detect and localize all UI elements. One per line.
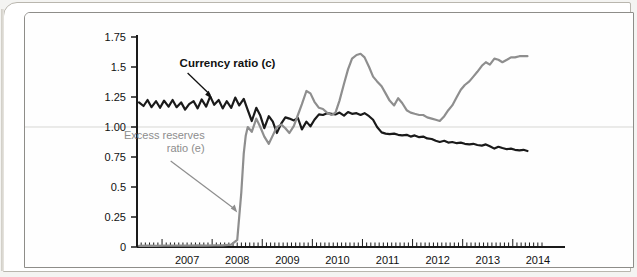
y-tick-label: 1.25 bbox=[105, 91, 126, 103]
currency-ratio-leader-line bbox=[188, 73, 211, 95]
excess-reserves-annotation-label-line2: ratio (e) bbox=[167, 142, 205, 154]
x-tick-label: 2008 bbox=[225, 254, 249, 266]
chart-surface: 00.250.50.751.001.251.51.752007200820092… bbox=[25, 13, 633, 267]
y-tick-label: 1.75 bbox=[105, 31, 126, 43]
page-frame: 00.250.50.751.001.251.51.752007200820092… bbox=[3, 2, 631, 272]
excess-reserves-arrowhead bbox=[231, 204, 238, 212]
excess-reserves-leader-line bbox=[171, 161, 236, 209]
x-tick-label: 2014 bbox=[526, 254, 550, 266]
x-tick-label: 2010 bbox=[325, 254, 349, 266]
x-tick-label: 2011 bbox=[376, 254, 400, 266]
y-tick-label: 1.00 bbox=[105, 121, 126, 133]
y-tick-label: 0 bbox=[120, 241, 126, 253]
y-tick-label: 0.5 bbox=[111, 181, 126, 193]
x-tick-label: 2007 bbox=[175, 254, 199, 266]
y-tick-label: 0.25 bbox=[105, 211, 126, 223]
line-chart: 00.250.50.751.001.251.51.752007200820092… bbox=[25, 13, 633, 267]
excess-reserves-annotation-label-line1: Excess reserves bbox=[124, 129, 205, 141]
y-tick-label: 0.75 bbox=[105, 151, 126, 163]
figure-frame: 00.250.50.751.001.251.51.752007200820092… bbox=[24, 12, 634, 268]
x-tick-label: 2009 bbox=[275, 254, 299, 266]
currency-ratio-annotation-label: Currency ratio (c) bbox=[180, 57, 276, 69]
screenshot-root: 00.250.50.751.001.251.51.752007200820092… bbox=[0, 0, 637, 277]
y-tick-label: 1.5 bbox=[111, 61, 126, 73]
x-tick-label: 2013 bbox=[476, 254, 500, 266]
x-tick-label: 2012 bbox=[425, 254, 449, 266]
